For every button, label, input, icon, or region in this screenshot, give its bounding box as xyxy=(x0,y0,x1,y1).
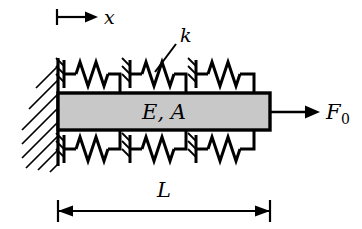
x-axis-label: x xyxy=(104,6,115,28)
spring-top-3-coil xyxy=(208,62,240,86)
dimension-arrowhead-right xyxy=(255,206,270,217)
spring-bottom-2-coil xyxy=(142,137,174,161)
length-label: L xyxy=(156,178,171,202)
spring-top-3 xyxy=(188,58,254,93)
diagram-canvas: x xyxy=(0,0,362,229)
force-subscript-label: 0 xyxy=(341,111,350,127)
spring-top-3-lead-right xyxy=(240,74,254,93)
spring-bottom-1-coil xyxy=(76,137,108,161)
spring-bottom-3-coil xyxy=(208,137,240,161)
spring-top-1-coil xyxy=(76,62,108,86)
length-dimension: L xyxy=(58,178,270,222)
spring-bottom-1 xyxy=(56,130,120,163)
spring-top-1 xyxy=(56,58,120,93)
applied-force-arrow: F 0 xyxy=(270,100,350,127)
x-axis-indicator: x xyxy=(57,6,115,28)
spring-top-2-coil xyxy=(142,62,174,86)
force-label: F xyxy=(325,100,342,124)
spring-bottom-1-lead-right xyxy=(108,130,120,149)
x-axis-arrowhead xyxy=(85,12,98,23)
force-arrow-head xyxy=(305,106,320,119)
spring-top-2 xyxy=(122,58,186,93)
spring-stiffness-label: k xyxy=(180,24,192,46)
spring-bottom-2 xyxy=(122,130,186,163)
wall-hatching xyxy=(22,66,58,172)
bar-properties-label: E, A xyxy=(141,100,186,124)
spring-bottom-3-lead-right xyxy=(240,130,254,149)
spring-bottom-2-lead-right xyxy=(174,130,186,149)
dimension-arrowhead-left xyxy=(58,206,73,217)
spring-top-1-lead-right xyxy=(108,74,120,93)
spring-bottom-3 xyxy=(188,130,254,163)
fixed-support-wall xyxy=(22,58,58,172)
spring-top-2-lead-right xyxy=(174,74,186,93)
mechanics-diagram: x xyxy=(0,0,362,229)
